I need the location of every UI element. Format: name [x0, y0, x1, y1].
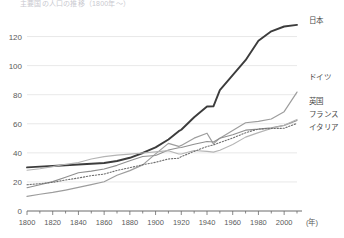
- x-axis-tick-label: 2000: [276, 218, 293, 227]
- x-axis-tick-label: 1960: [224, 218, 241, 227]
- series-line-3: [27, 119, 297, 170]
- x-axis-tick-label: 1800: [19, 218, 36, 227]
- y-axis-tick-label: 20: [13, 178, 22, 187]
- x-axis-tick-label: 1820: [44, 218, 61, 227]
- x-axis-tick-label: 1980: [250, 218, 267, 227]
- x-axis-tick-label: 1840: [70, 218, 87, 227]
- x-axis-tick-label: 1900: [147, 218, 164, 227]
- legend-label-イタリア: イタリア: [309, 121, 338, 132]
- y-axis-tick-label: 120: [9, 33, 23, 42]
- series-line-2: [27, 120, 297, 187]
- legend-label-ドイツ: ドイツ: [309, 71, 331, 82]
- legend-label-英国: 英国: [309, 95, 324, 106]
- y-axis-tick-label: 40: [13, 149, 22, 158]
- x-axis-tick-label: 1940: [199, 218, 216, 227]
- legend-label-フランス: フランス: [309, 108, 338, 119]
- y-axis-tick-label: 100: [9, 62, 23, 71]
- legend-label-日本: 日本: [309, 14, 324, 25]
- x-axis-tick-label: 1880: [122, 218, 139, 227]
- y-axis-tick-label: 80: [13, 91, 22, 100]
- x-axis-unit-label: (年): [306, 217, 318, 227]
- chart-plot-area: 0204060801001201800182018401860188019001…: [0, 0, 344, 238]
- y-axis-tick-label: 0: [18, 207, 23, 216]
- series-line-0: [27, 25, 297, 167]
- population-line-chart: 主要国の人口の推移（1800年〜） 0204060801001201800182…: [0, 0, 344, 238]
- y-axis-tick-label: 60: [13, 120, 22, 129]
- x-axis-tick-label: 1860: [96, 218, 113, 227]
- x-axis-tick-label: 1920: [173, 218, 190, 227]
- series-line-4: [27, 123, 297, 184]
